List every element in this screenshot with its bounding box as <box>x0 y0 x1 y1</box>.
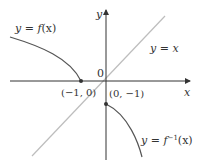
f-curve <box>10 37 81 81</box>
identity-label: y = x <box>149 42 179 55</box>
f-label: y = f(x) <box>14 22 56 35</box>
point-label-neg1-0: (−1, 0) <box>61 87 96 98</box>
origin-label: 0 <box>97 67 104 80</box>
inverse-function-diagram: y x 0 y = f(x) y = x y = f−1(x) (−1, 0) … <box>0 0 201 167</box>
point-label-0-neg1: (0, −1) <box>109 88 144 99</box>
f-inverse-curve <box>106 104 142 157</box>
point-neg1-0 <box>79 79 83 83</box>
y-axis-label: y <box>95 8 103 21</box>
f-inverse-label: y = f−1(x) <box>140 134 193 147</box>
point-0-neg1 <box>104 102 108 106</box>
x-axis-label: x <box>184 86 191 99</box>
